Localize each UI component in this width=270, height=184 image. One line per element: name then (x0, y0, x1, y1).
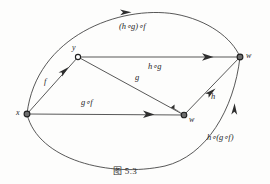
arrowhead-f (59, 67, 69, 76)
edge-path-g (78, 57, 184, 115)
path-label-hg-comp-f: (h∘g)∘f (119, 22, 146, 31)
vertex-node-x[interactable] (24, 111, 30, 117)
edge-label-f: f (44, 77, 46, 86)
arrowhead-h-gf (231, 103, 237, 115)
edge-label-g-comp-f: g∘f (81, 98, 93, 107)
vertex-label-z: w (189, 116, 194, 124)
edge-path-h (184, 57, 240, 115)
vertex-label-w: w (246, 52, 251, 60)
edge-label-h-comp-g: h∘g (148, 62, 162, 71)
arrowhead-hg-f (120, 10, 132, 16)
figure-container: x y w w f g h h∘g g∘f (h∘g)∘f h∘(g∘f) 图 … (0, 0, 270, 184)
vertex-label-x: x (16, 109, 20, 117)
arrowhead-gf (143, 111, 155, 119)
vertex-node-y[interactable] (75, 54, 80, 59)
vertex-label-y: y (72, 44, 76, 52)
figure-caption: 图 5.3 (113, 164, 137, 177)
vertex-node-w[interactable] (237, 54, 243, 60)
vertex-node-z[interactable] (181, 112, 187, 118)
edge-path-h-gf (27, 57, 240, 170)
edge-path-gf (27, 114, 184, 115)
path-label-h-comp-gf: h∘(g∘f) (207, 133, 234, 142)
edge-label-g: g (135, 73, 139, 82)
edge-label-h: h (211, 92, 215, 101)
